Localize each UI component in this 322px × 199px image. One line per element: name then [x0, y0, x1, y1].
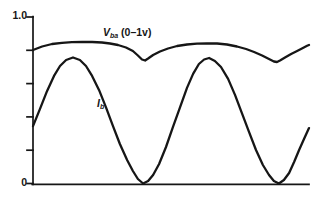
y-axis-zero-label: 0 [6, 176, 27, 188]
vba-symbol: V [103, 26, 110, 38]
vba-range-suffix: (0–1v) [118, 26, 151, 38]
ib-subscript: b [100, 103, 104, 110]
y-axis-max-label: 1.0 [4, 9, 27, 21]
vba-subscript: ba [110, 32, 118, 39]
chart-canvas [0, 0, 322, 199]
ib-curve [33, 58, 309, 184]
vba-curve-label: Vba (0–1v) [103, 26, 151, 39]
waveform-figure: 1.0 0 Vba (0–1v) Ib [0, 0, 322, 199]
ib-curve-label: Ib [97, 97, 104, 110]
